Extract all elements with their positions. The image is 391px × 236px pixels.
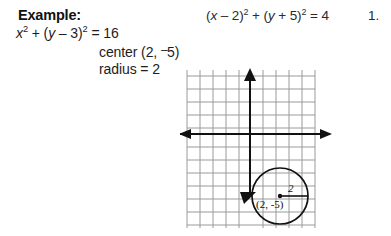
worksheet-page: Example: x2 + (y – 3)2 = 16 (x – 2)2 + (… bbox=[0, 0, 391, 236]
given-equation-plus: + ( bbox=[28, 25, 48, 41]
given-equation: x2 + (y – 3)2 = 16 bbox=[16, 26, 119, 40]
y-axis-arrow-up bbox=[244, 68, 256, 81]
given-equation-equals: = 16 bbox=[88, 25, 119, 41]
radius-value-label: 2 bbox=[288, 182, 294, 194]
circle-center-label: (2, -5) bbox=[256, 198, 284, 211]
x-axis bbox=[180, 129, 332, 139]
standard-equals: = 4 bbox=[306, 8, 329, 23]
standard-y: y bbox=[268, 8, 275, 23]
x-axis-arrow-left bbox=[180, 129, 191, 139]
example-heading: Example: bbox=[18, 8, 81, 23]
given-equation-x: x bbox=[16, 25, 23, 41]
standard-minus-two: – 2) bbox=[217, 8, 244, 23]
center-answer-line: center (2, –5) bbox=[99, 45, 179, 59]
standard-plus-five: + 5) bbox=[275, 8, 302, 23]
center-answer-prefix: center (2, bbox=[99, 44, 161, 60]
standard-form-equation: (x – 2)2 + (y + 5)2 = 4 bbox=[206, 9, 329, 23]
radius-answer-line: radius = 2 bbox=[99, 62, 160, 76]
coordinate-graph: 2 (2, -5) bbox=[180, 66, 391, 236]
y-axis bbox=[240, 68, 256, 204]
x-axis-arrow-right bbox=[320, 129, 332, 139]
y-axis-arrow-down bbox=[240, 192, 256, 204]
problem-number: 1. bbox=[368, 9, 379, 23]
center-answer-value: 5) bbox=[167, 44, 179, 60]
standard-plus: + ( bbox=[248, 8, 267, 23]
given-equation-minus-three: – 3) bbox=[55, 25, 83, 41]
